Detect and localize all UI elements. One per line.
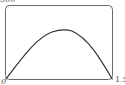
- plot-area: [0, 0, 125, 85]
- plot-frame: [6, 6, 113, 80]
- data-curve: [6, 30, 113, 80]
- x-max-label: 1.5: [115, 76, 125, 84]
- x-min-label: 0: [1, 78, 6, 85]
